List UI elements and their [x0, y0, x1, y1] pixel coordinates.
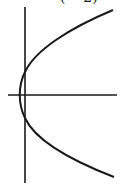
parabola-diagram	[0, 0, 122, 186]
parabola-curve	[20, 10, 114, 177]
